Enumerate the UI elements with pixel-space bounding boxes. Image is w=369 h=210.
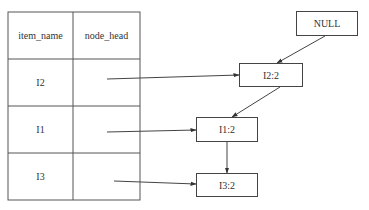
arrow-i2-head: [107, 75, 239, 79]
arrow-i2-to-i1: [232, 87, 280, 117]
header-node-head: node_head: [73, 12, 140, 59]
node-null: NULL: [296, 11, 358, 36]
row-item-i3: I3: [8, 153, 73, 200]
node-i2: I2:2: [239, 63, 303, 87]
node-i3: I3:2: [196, 173, 258, 197]
node-i1: I1:2: [196, 117, 258, 142]
header-item-name: item_name: [8, 12, 73, 59]
row-item-i1: I1: [8, 106, 73, 153]
arrow-null-to-i2: [277, 36, 325, 63]
arrow-i1-head: [107, 130, 196, 132]
row-item-i2: I2: [8, 59, 73, 106]
arrow-i3-head: [114, 181, 196, 184]
